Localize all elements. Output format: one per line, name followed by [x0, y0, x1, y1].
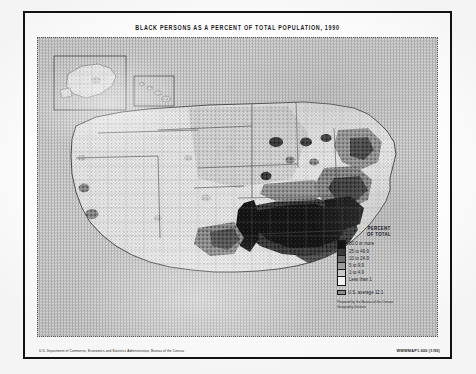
- legend-swatch: [338, 277, 345, 284]
- map-number: WWWMAP1-600 (1/95): [397, 348, 440, 353]
- legend-labels: 50.0 or more 25 to 49.9 10 to 24.9 5 to …: [349, 240, 411, 283]
- map-legend: PERCENT OF TOTAL 50.0 or more 25 to 49.9: [337, 226, 411, 308]
- legend-title: PERCENT OF TOTAL: [351, 225, 407, 237]
- legend-label: Less than 1: [349, 276, 411, 284]
- legend-swatch: [338, 241, 345, 248]
- legend-source-note: Prepared by the Bureau of the Census Geo…: [337, 300, 409, 309]
- footer-credit: U.S. Department of Commerce, Economics a…: [39, 348, 184, 353]
- legend-swatch: [338, 256, 345, 263]
- legend-swatch: [338, 263, 345, 270]
- map-poster-frame: BLACK PERSONS AS A PERCENT OF TOTAL POPU…: [23, 11, 452, 359]
- legend-us-average: U.S. average 12.1: [337, 290, 411, 295]
- legend-swatch: [338, 249, 345, 256]
- scanned-page: BLACK PERSONS AS A PERCENT OF TOTAL POPU…: [0, 0, 476, 374]
- legend-body: 50.0 or more 25 to 49.9 10 to 24.9 5 to …: [337, 240, 411, 285]
- map-panel: PERCENT OF TOTAL 50.0 or more 25 to 49.9: [37, 37, 438, 337]
- legend-average-label: U.S. average 12.1: [348, 289, 383, 295]
- legend-swatch: [338, 270, 345, 277]
- legend-color-ramp: [337, 240, 346, 285]
- page-title: BLACK PERSONS AS A PERCENT OF TOTAL POPU…: [25, 24, 450, 31]
- legend-average-swatch: [337, 290, 346, 295]
